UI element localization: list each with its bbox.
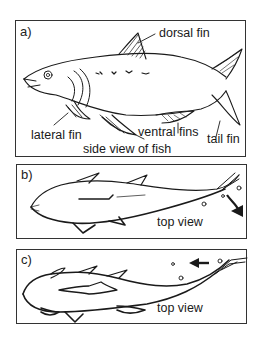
panel-c-top-view: c) top view [16, 249, 247, 324]
label-tail-fin: tail fin [207, 132, 240, 146]
label-ventral-fins: ventral fins [138, 125, 198, 139]
water-push-arrow-icon [17, 250, 248, 325]
panel-a-side-view: a) dorsal fin [15, 20, 246, 157]
caption-side-view: side view of fish [83, 142, 171, 156]
caption-top-view-c: top view [157, 301, 203, 315]
panel-b-top-view: b) top view [16, 164, 247, 239]
label-dorsal-fin: dorsal fin [159, 26, 210, 40]
tail-movement-arrow-icon [17, 165, 248, 240]
caption-top-view-b: top view [157, 215, 203, 229]
label-lateral-fin: lateral fin [31, 128, 82, 142]
